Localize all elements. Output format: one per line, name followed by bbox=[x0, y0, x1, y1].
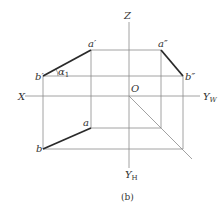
label-a-prime: a′ bbox=[88, 38, 97, 49]
diagonal-45-line bbox=[129, 96, 192, 159]
label-a-dprime: a″ bbox=[158, 38, 168, 49]
caption: (b) bbox=[121, 192, 134, 202]
label-b-dprime: b″ bbox=[185, 71, 195, 82]
label-x: X bbox=[17, 91, 26, 102]
segment-side-view bbox=[161, 50, 183, 76]
label-yh: YH bbox=[125, 169, 138, 182]
label-z: Z bbox=[123, 10, 132, 21]
projection-diagram: Z X O YW YH a′ b′ a″ b″ a b α1 (b) bbox=[0, 0, 223, 211]
segment-top-view bbox=[43, 128, 91, 149]
label-a: a bbox=[83, 117, 89, 128]
label-b: b bbox=[36, 143, 42, 154]
label-angle-alpha1: α1 bbox=[58, 66, 69, 79]
label-origin: O bbox=[131, 83, 139, 94]
label-yw: YW bbox=[203, 91, 218, 104]
label-b-prime: b′ bbox=[35, 71, 44, 82]
